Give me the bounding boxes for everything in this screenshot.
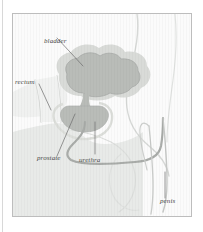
anatomy-diagram-svg xyxy=(13,14,191,216)
label-urethra: urethra xyxy=(79,157,100,164)
label-bladder: bladder xyxy=(44,38,66,45)
penis-outline-inner xyxy=(149,126,153,214)
label-penis: penis xyxy=(160,198,175,205)
anatomy-figure-frame: bladder rectum prostate urethra penis xyxy=(12,13,192,217)
label-prostate: prostate xyxy=(37,155,61,162)
body-outline-far-right xyxy=(167,14,176,142)
label-rectum: rectum xyxy=(15,79,35,86)
page-edge-rule xyxy=(2,0,3,232)
